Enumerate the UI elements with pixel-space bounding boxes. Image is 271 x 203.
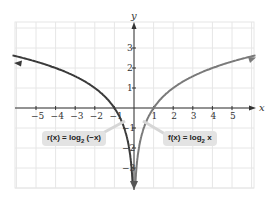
svg-text:1: 1: [152, 111, 158, 121]
tick-labels: xy−5−4−3−2−112345−3−2−1123: [31, 10, 265, 173]
svg-text:5: 5: [230, 111, 236, 121]
svg-text:−3: −3: [70, 111, 84, 121]
figure-caption-placeholder: [14, 194, 214, 200]
svg-text:1: 1: [127, 83, 133, 93]
svg-text:−2: −2: [90, 111, 103, 121]
axes: [15, 22, 256, 190]
svg-text:2: 2: [127, 63, 133, 73]
svg-text:4: 4: [210, 111, 216, 121]
svg-text:3: 3: [191, 111, 197, 121]
log-function-graph: xy−5−4−3−2−112345−3−2−1123: [0, 0, 271, 203]
label-f-function: f(x) = log2 x: [163, 131, 217, 146]
svg-text:2: 2: [171, 111, 177, 121]
svg-text:3: 3: [127, 43, 133, 53]
svg-text:−4: −4: [51, 111, 65, 121]
svg-text:y: y: [130, 10, 137, 21]
svg-text:−3: −3: [122, 163, 136, 173]
svg-text:x: x: [259, 102, 265, 113]
label-r-function: r(x) = log2 (−x): [42, 131, 106, 146]
svg-text:−5: −5: [31, 111, 45, 121]
